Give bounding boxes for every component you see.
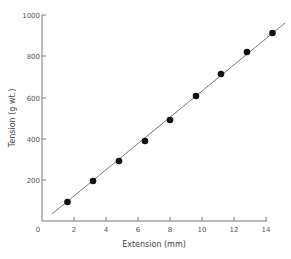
y-tick-label: 1000 [22,12,40,20]
x-tick-label: 8 [168,226,172,234]
x-tick-label: 2 [72,226,76,234]
data-point [244,49,251,56]
x-axis-title: Extension (mm) [122,240,186,249]
x-tick-label: 6 [136,226,141,234]
y-axis-title: Tension (g wt.) [8,89,17,149]
x-tick-label: 10 [198,226,207,234]
x-tick-label: 14 [262,226,271,234]
y-ticks [42,15,46,180]
y-tick-label: 200 [27,177,40,185]
y-tick-label: 400 [27,136,40,144]
chart: 1000 800 600 400 200 0 2 4 6 8 10 12 14 … [0,0,291,259]
x-tick-label: 12 [230,226,239,234]
y-tick-label: 600 [27,95,40,103]
data-point [142,138,149,145]
data-point [116,158,123,165]
origin-label: 0 [36,226,40,234]
data-point [269,30,276,37]
data-point [167,117,174,124]
data-points [64,30,276,206]
data-point [193,93,200,100]
y-tick-labels: 1000 800 600 400 200 [22,12,40,185]
y-tick-label: 800 [27,53,40,61]
data-point [218,71,225,78]
x-tick-labels: 0 2 4 6 8 10 12 14 [36,226,271,234]
data-point [64,199,71,206]
data-point [90,178,97,185]
x-tick-label: 4 [104,226,109,234]
x-ticks [74,217,266,221]
